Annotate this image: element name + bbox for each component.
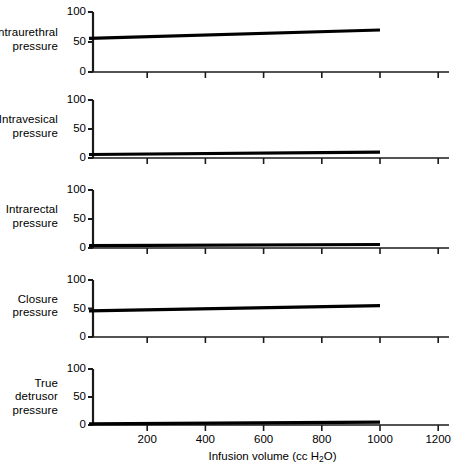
x-axis-title-subscript: 2 <box>319 454 324 464</box>
panel-label-5: Truedetrusorpressure <box>12 377 58 418</box>
x-axis-title-main: Infusion volume (cc H <box>208 450 319 462</box>
panel-label-line: detrusor <box>12 390 58 404</box>
panel-axes-and-line <box>0 0 455 464</box>
x-axis-title: Infusion volume (cc H2O) <box>0 450 455 464</box>
panel-label-line: True <box>12 377 58 391</box>
x-tick-label-800: 800 <box>292 434 352 446</box>
x-axis-title-tail: O) <box>324 450 337 462</box>
x-tick-label-200: 200 <box>117 434 177 446</box>
urodynamics-multipanel-figure: 050100Intraurethralpressure050100Intrave… <box>0 0 455 464</box>
y-tick-label-50: 50 <box>73 391 86 403</box>
x-tick-label-400: 400 <box>175 434 235 446</box>
x-tick-label-1200: 1200 <box>408 434 455 446</box>
x-tick-label-600: 600 <box>234 434 294 446</box>
y-tick-label-100: 100 <box>67 363 86 375</box>
x-tick-label-1000: 1000 <box>350 434 410 446</box>
panel-label-line: pressure <box>12 404 58 418</box>
y-tick-label-0: 0 <box>80 419 86 431</box>
data-line-5 <box>89 422 380 424</box>
